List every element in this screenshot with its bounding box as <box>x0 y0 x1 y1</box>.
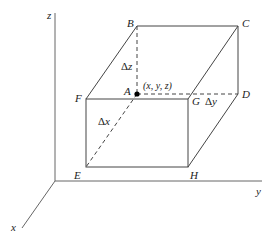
vertex-A-label: A <box>124 86 131 97</box>
front-face <box>86 99 188 167</box>
delta-y-var: y <box>212 95 217 107</box>
vertex-G-label: G <box>192 96 200 107</box>
point-coordinates-label: (x, y, z) <box>143 81 172 91</box>
delta-x-label: Δx <box>98 116 110 127</box>
delta-z-var: z <box>128 60 132 72</box>
vertex-F-label: F <box>75 93 82 104</box>
delta-z-label: Δz <box>121 61 132 72</box>
edge-GC <box>188 26 238 99</box>
z-axis-label: z <box>47 10 51 21</box>
point-A <box>134 91 139 96</box>
diagram-lines <box>0 0 271 245</box>
delta-x-var: x <box>105 115 110 127</box>
delta-y-label: Δy <box>205 96 217 107</box>
x-axis <box>22 181 55 228</box>
vertex-B-label: B <box>127 18 134 29</box>
vertex-D-label: D <box>242 89 250 100</box>
hidden-edge-AE <box>86 94 137 167</box>
vertex-E-label: E <box>74 170 81 181</box>
vertex-C-label: C <box>242 18 249 29</box>
vertex-H-label: H <box>190 170 198 181</box>
y-axis-label: y <box>256 186 261 197</box>
x-axis-label: x <box>11 222 16 233</box>
box-diagram: z y x B C A D F G E H (x, y, z) Δz Δy Δx <box>0 0 271 245</box>
